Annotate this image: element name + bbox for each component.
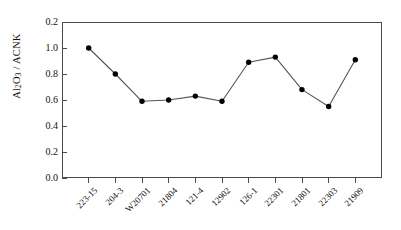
data-point [113, 71, 118, 76]
data-point [246, 60, 251, 65]
data-point [299, 87, 304, 92]
data-series-layer [0, 0, 401, 230]
data-point [166, 97, 171, 102]
data-point [273, 54, 278, 59]
data-point [219, 99, 224, 104]
series-line [89, 48, 356, 107]
data-point [353, 57, 358, 62]
data-point [193, 93, 198, 98]
chart-figure: Al2O3 / ACNK 0.00.20.40.60.81.00.2 223-1… [0, 0, 401, 230]
data-point [139, 99, 144, 104]
data-point [326, 104, 331, 109]
data-point [86, 45, 91, 50]
